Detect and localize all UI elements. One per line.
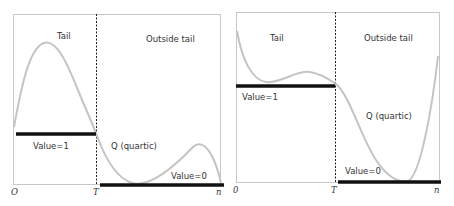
- left-curve-label: Q (quartic): [111, 141, 157, 151]
- left-panel: Tail Outside tail Value=1 Q (quartic) Va…: [11, 14, 224, 197]
- right-outside-tail-label: Outside tail: [364, 33, 413, 43]
- right-panel: Tail Outside tail Value=1 Q (quartic) Va…: [233, 12, 441, 195]
- left-value-zero-label: Value=0: [171, 171, 207, 181]
- left-quartic-curve: [14, 42, 221, 183]
- figure: Tail Outside tail Value=1 Q (quartic) Va…: [0, 0, 454, 206]
- left-tail-label: Tail: [56, 31, 71, 41]
- right-value-zero-label: Value=0: [345, 166, 381, 176]
- left-outside-tail-label: Outside tail: [146, 34, 195, 44]
- right-axis-origin-tick: 0: [233, 185, 239, 195]
- right-curve-label: Q (quartic): [366, 111, 412, 121]
- right-axis-end-tick: n: [434, 185, 439, 195]
- right-tail-label: Tail: [269, 33, 284, 43]
- left-axis-origin-tick: O: [11, 187, 18, 197]
- left-axis-end-tick: n: [216, 187, 221, 197]
- left-value-one-label: Value=1: [33, 141, 69, 151]
- left-axis-threshold-tick: T: [93, 187, 100, 197]
- right-axis-threshold-tick: T: [331, 185, 338, 195]
- right-value-one-label: Value=1: [242, 92, 278, 102]
- right-quartic-curve: [237, 31, 438, 181]
